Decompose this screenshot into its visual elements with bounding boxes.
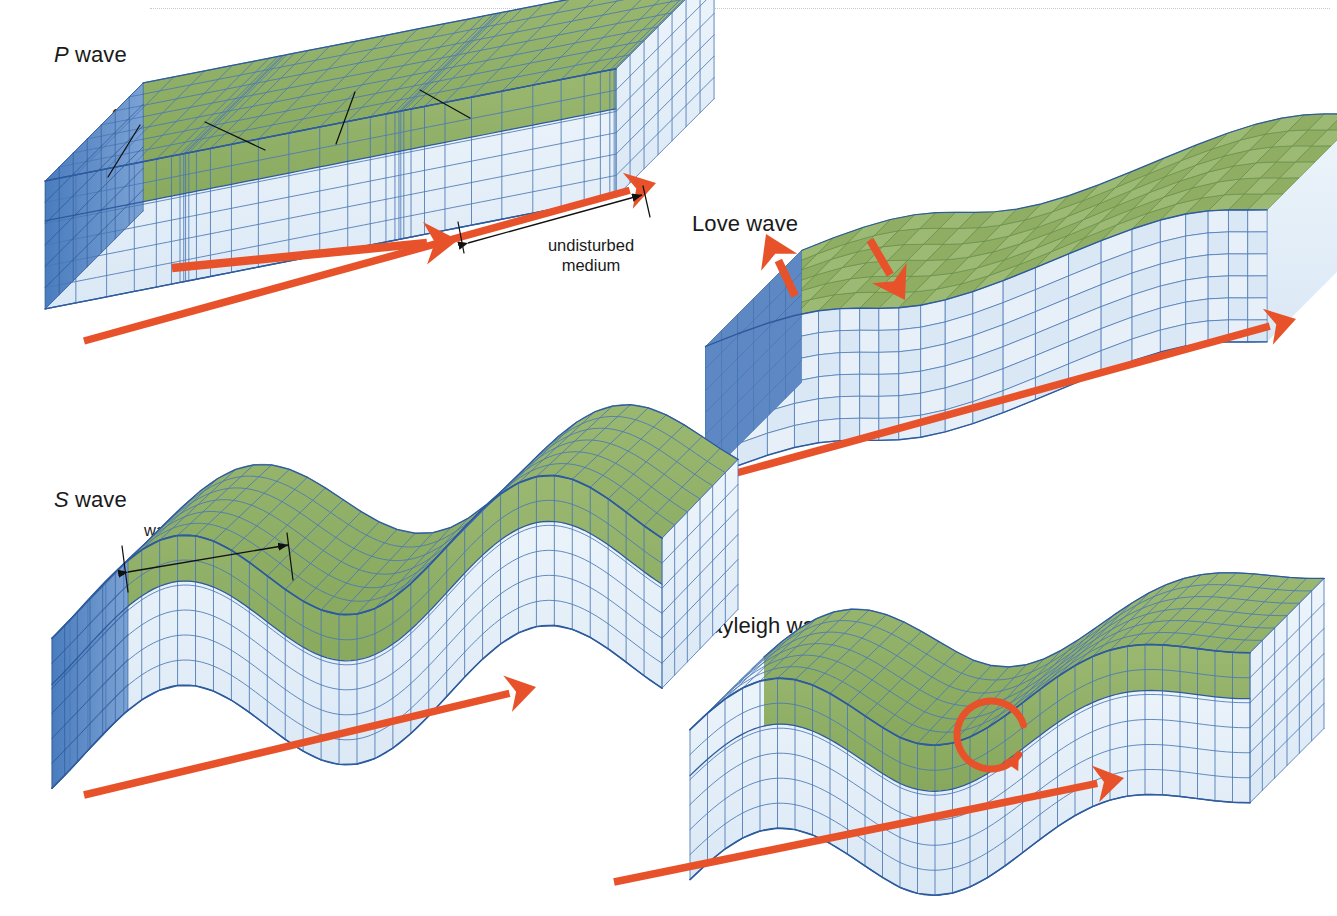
wave-blocks-artwork <box>0 0 1337 916</box>
s-wave-block <box>52 405 738 795</box>
love-wave-block <box>706 114 1337 479</box>
p-wave-block <box>45 0 714 341</box>
figure-canvas: P wave Love wave S wave Rayleigh wave ex… <box>0 0 1337 916</box>
love-cube-field <box>706 114 1337 479</box>
